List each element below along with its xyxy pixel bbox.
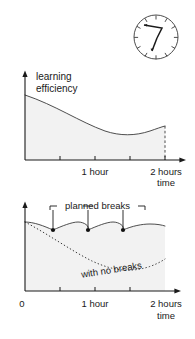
- top-chart-area-fill: [25, 95, 165, 160]
- clock-face-icon: [134, 15, 178, 59]
- figure-canvas: learning efficiency 1 hour 2 hours time …: [0, 0, 195, 339]
- top-chart-ylabel-line2: efficiency: [36, 83, 78, 94]
- top-chart-ylabel-line1: learning: [36, 71, 72, 82]
- top-chart-xlabel: time: [157, 177, 175, 188]
- bottom-chart-y-axis-arrowhead: [22, 202, 27, 209]
- bottom-chart-xtick-2hours: 2 hours: [150, 298, 182, 309]
- break-marker-3: [121, 228, 125, 232]
- break-marker-2: [86, 228, 90, 232]
- bottom-chart-xlabel: time: [157, 310, 175, 321]
- break-marker-1: [51, 228, 55, 232]
- top-chart-xtick-2hours: 2 hours: [150, 166, 182, 177]
- planned-breaks-annotation: planned breaks: [65, 200, 130, 211]
- bottom-chart-x-axis-arrowhead: [174, 288, 181, 293]
- bottom-chart-xtick-1hour: 1 hour: [82, 298, 109, 309]
- top-chart-xtick-1hour: 1 hour: [82, 166, 109, 177]
- bottom-chart: [22, 202, 181, 294]
- top-chart-x-axis-arrowhead: [179, 157, 186, 162]
- bottom-chart-area-fill: [25, 222, 165, 291]
- bottom-chart-origin-label: 0: [19, 298, 24, 309]
- top-chart-y-axis-arrowhead: [22, 71, 27, 78]
- figure-root: learning efficiency 1 hour 2 hours time …: [0, 0, 195, 339]
- analog-clock: [134, 15, 178, 59]
